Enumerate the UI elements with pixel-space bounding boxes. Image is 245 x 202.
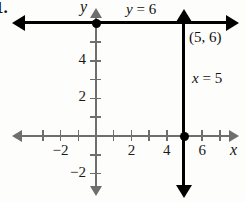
y-axis-tick <box>90 154 101 156</box>
x-axis-tick <box>201 130 203 141</box>
y-axis-label: y <box>80 0 87 16</box>
x-axis-tick-label: 4 <box>152 142 182 159</box>
x-axis-label: x <box>230 141 237 159</box>
x-axis-tick <box>219 130 221 141</box>
x-axis-tick <box>42 130 44 141</box>
x-axis-tick <box>113 130 115 141</box>
x-axis-tick <box>131 130 133 141</box>
equation-label-y-equals-6: y = 6 <box>126 1 156 18</box>
x-axis-line <box>20 135 232 137</box>
x-axis-tick <box>166 130 168 141</box>
plotted-point-5-0 <box>180 132 189 141</box>
plotted-point-0-6 <box>92 19 101 28</box>
y-axis-tick <box>90 41 101 43</box>
x-axis-tick <box>78 130 80 141</box>
y-axis-tick <box>90 98 101 100</box>
graph-line-x-arrow-bottom-icon <box>176 185 192 198</box>
y-axis-tick <box>90 116 101 118</box>
x-axis-tick <box>60 130 62 141</box>
graph-line-y-equals-6 <box>22 21 230 24</box>
x-axis-arrow-left-icon <box>12 130 22 142</box>
y-axis-tick-label: −2 <box>50 164 86 181</box>
coordinate-graph-figure: 1. −224642−2 y x y = 6 x = 5 (5, 6) <box>0 0 245 202</box>
y-axis-tick <box>90 173 101 175</box>
equation-rest-y: = 6 <box>133 1 156 17</box>
equation-variable-x: x <box>192 70 199 86</box>
y-axis-tick-label: 2 <box>50 88 86 105</box>
x-axis-tick-label: 2 <box>116 142 146 159</box>
x-axis-tick-label: −2 <box>46 142 76 159</box>
x-axis-tick <box>148 130 150 141</box>
y-axis-tick <box>90 60 101 62</box>
graph-line-y-arrow-left-icon <box>12 15 25 31</box>
point-coordinate-label: (5, 6) <box>189 29 222 46</box>
graph-line-x-equals-5 <box>182 21 185 189</box>
y-axis-arrow-up-icon <box>90 8 102 18</box>
x-axis-tick-label: 6 <box>187 142 217 159</box>
y-axis-tick-label: 4 <box>50 51 86 68</box>
y-axis-tick <box>90 79 101 81</box>
equation-variable-y: y <box>126 1 133 17</box>
graph-line-y-arrow-right-icon <box>226 15 239 31</box>
equation-rest-x: = 5 <box>199 70 222 86</box>
y-axis-arrow-down-icon <box>90 186 102 196</box>
problem-number: 1. <box>0 0 8 18</box>
equation-label-x-equals-5: x = 5 <box>192 70 222 87</box>
graph-line-x-arrow-top-icon <box>176 9 192 22</box>
